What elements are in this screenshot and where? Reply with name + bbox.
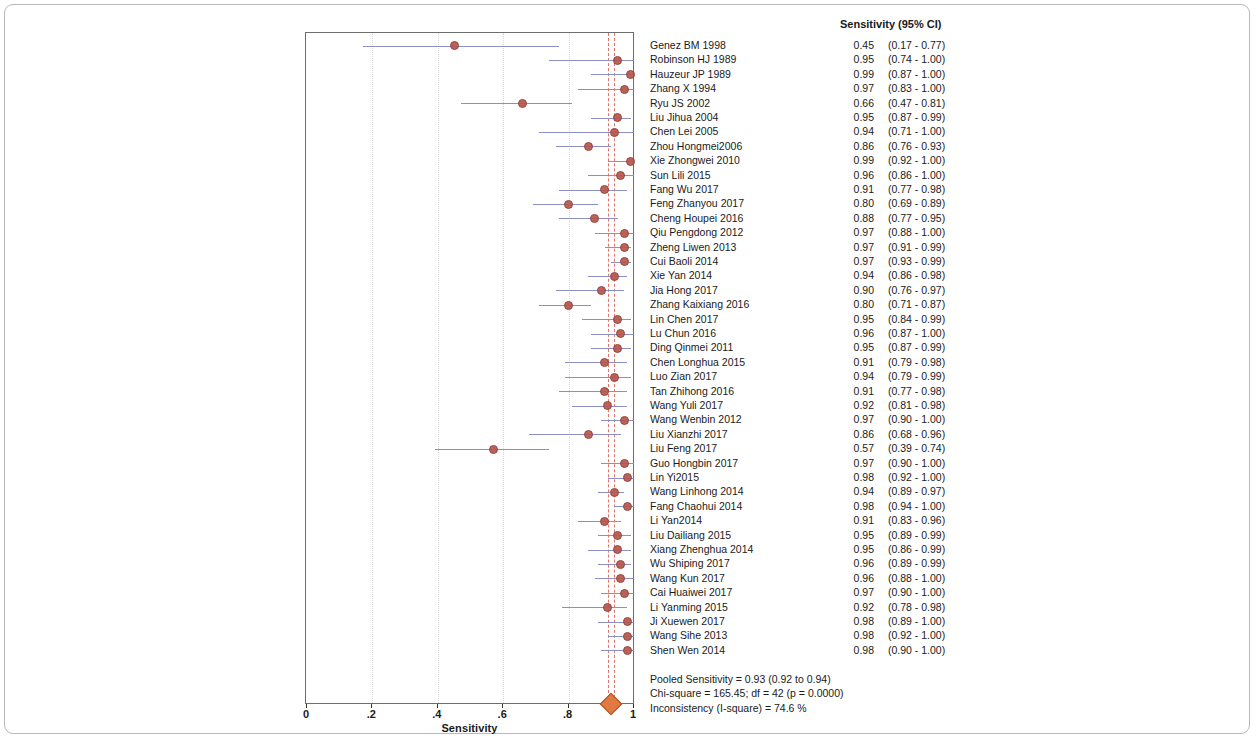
study-estimate: 0.95 [842,341,874,353]
study-estimate: 0.80 [842,298,874,310]
study-row: Sun Lili 20150.96(0.86 - 1.00) [650,169,990,183]
forest-row [306,543,633,557]
study-estimate: 0.94 [842,269,874,281]
forest-row [306,111,633,125]
point-estimate-marker [600,517,609,526]
forest-row [306,644,633,658]
study-name: Chen Longhua 2015 [650,356,745,368]
study-confidence-interval: (0.90 - 1.00) [888,586,945,598]
study-estimate: 0.86 [842,140,874,152]
study-estimate: 0.88 [842,212,874,224]
forest-row [306,457,633,471]
confidence-interval-line [556,290,625,291]
study-estimate: 0.57 [842,442,874,454]
forest-row [306,529,633,543]
study-confidence-interval: (0.88 - 1.00) [888,572,945,584]
forest-row [306,269,633,283]
study-confidence-interval: (0.83 - 0.96) [888,514,945,526]
study-estimate: 0.99 [842,68,874,80]
forest-row [306,226,633,240]
study-name: Wang Kun 2017 [650,572,725,584]
study-row: Wu Shiping 20170.96(0.89 - 0.99) [650,557,990,571]
study-confidence-interval: (0.87 - 0.99) [888,111,945,123]
forest-row [306,53,633,67]
study-estimate: 0.45 [842,39,874,51]
study-confidence-interval: (0.77 - 0.98) [888,385,945,397]
study-confidence-interval: (0.94 - 1.00) [888,500,945,512]
study-name: Jia Hong 2017 [650,284,718,296]
study-name: Sun Lili 2015 [650,169,711,181]
study-name: Hauzeur JP 1989 [650,68,731,80]
study-row: Zheng Liwen 20130.97(0.91 - 0.99) [650,241,990,255]
study-row: Cai Huaiwei 20170.97(0.90 - 1.00) [650,586,990,600]
study-confidence-interval: (0.68 - 0.96) [888,428,945,440]
study-confidence-interval: (0.77 - 0.95) [888,212,945,224]
point-estimate-marker [597,286,606,295]
study-row: Zhou Hongmei20060.86(0.76 - 0.93) [650,140,990,154]
study-name: Wang Yuli 2017 [650,399,723,411]
study-estimate: 0.98 [842,644,874,656]
confidence-interval-line [559,218,618,219]
forest-row [306,284,633,298]
point-estimate-marker [603,401,612,410]
study-confidence-interval: (0.79 - 0.98) [888,356,945,368]
study-name: Xiang Zhenghua 2014 [650,543,753,555]
study-estimate: 0.98 [842,471,874,483]
axis-tick-label: .8 [563,708,572,720]
study-confidence-interval: (0.90 - 1.00) [888,644,945,656]
study-row: Xie Yan 20140.94(0.86 - 0.98) [650,269,990,283]
study-estimate: 0.98 [842,615,874,627]
study-row: Fang Wu 20170.91(0.77 - 0.98) [650,183,990,197]
axis-tick-label: 1 [630,708,636,720]
study-row: Qiu Pengdong 20120.97(0.88 - 1.00) [650,226,990,240]
forest-row [306,413,633,427]
study-confidence-interval: (0.83 - 1.00) [888,82,945,94]
study-estimate: 0.98 [842,500,874,512]
axis-tick-label: 0 [303,708,309,720]
study-confidence-interval: (0.88 - 1.00) [888,226,945,238]
study-estimate: 0.91 [842,356,874,368]
forest-row [306,500,633,514]
study-confidence-interval: (0.71 - 0.87) [888,298,945,310]
study-row: Lin Yi20150.98(0.92 - 1.00) [650,471,990,485]
study-name: Tan Zhihong 2016 [650,385,734,397]
study-name: Liu Dailiang 2015 [650,529,731,541]
point-estimate-marker [616,329,625,338]
axis-tick-label: .4 [432,708,441,720]
study-confidence-interval: (0.86 - 0.99) [888,543,945,555]
chi-square-text: Chi-square = 165.45; df = 42 (p = 0.0000… [650,686,844,700]
study-row: Liu Xianzhi 20170.86(0.68 - 0.96) [650,428,990,442]
i-square-text: Inconsistency (I-square) = 74.6 % [650,701,844,715]
forest-row [306,514,633,528]
study-row: Chen Lei 20050.94(0.71 - 1.00) [650,125,990,139]
study-estimate: 0.66 [842,97,874,109]
study-name: Wu Shiping 2017 [650,557,730,569]
study-estimate: 0.91 [842,183,874,195]
confidence-interval-line [582,319,631,320]
study-name: Wang Wenbin 2012 [650,413,742,425]
confidence-interval-line [588,276,627,277]
study-name: Lin Chen 2017 [650,313,718,325]
study-confidence-interval: (0.76 - 0.97) [888,284,945,296]
confidence-interval-line [529,434,621,435]
study-name: Guo Hongbin 2017 [650,457,738,469]
study-row: Li Yan20140.91(0.83 - 0.96) [650,514,990,528]
confidence-interval-line [591,118,630,119]
study-confidence-interval: (0.78 - 0.98) [888,601,945,613]
point-estimate-marker [623,502,632,511]
confidence-interval-line [565,377,630,378]
forest-row [306,82,633,96]
point-estimate-marker [620,85,629,94]
forest-row [306,471,633,485]
point-estimate-marker [613,56,622,65]
study-row: Ji Xuewen 20170.98(0.89 - 1.00) [650,615,990,629]
study-name: Luo Zian 2017 [650,370,717,382]
study-name: Liu Feng 2017 [650,442,717,454]
confidence-interval-line [539,132,634,133]
forest-row [306,572,633,586]
study-name: Wang Sihe 2013 [650,629,727,641]
confidence-interval-line [572,406,628,407]
point-estimate-marker [623,473,632,482]
study-estimate: 0.97 [842,457,874,469]
study-row: Liu Jihua 20040.95(0.87 - 0.99) [650,111,990,125]
